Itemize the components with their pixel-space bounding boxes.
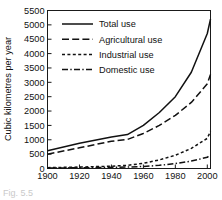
y-tick-label: 5000 xyxy=(24,20,44,30)
y-tick-label: 5500 xyxy=(24,6,44,16)
y-tick-label: 2000 xyxy=(24,106,44,116)
x-tick-label: 1960 xyxy=(133,171,153,181)
legend-item-industrial-use: Industrial use xyxy=(62,50,154,60)
y-tick-label: 500 xyxy=(29,149,44,159)
x-axis-tick-labels: 190019201940196019802000 xyxy=(37,171,217,181)
x-tick-label: 2000 xyxy=(197,171,217,181)
y-tick-label: 2500 xyxy=(24,92,44,102)
y-axis-title: Cubic kilometres per year xyxy=(3,37,13,141)
series-line-domestic-use xyxy=(48,155,211,168)
series-line-agricultural-use xyxy=(48,75,211,155)
line-chart: 0500100015002000250030003500400045005000… xyxy=(0,0,222,200)
legend-label-agricultural-use: Agricultural use xyxy=(99,35,162,45)
chart-legend: Total useAgricultural useIndustrial useD… xyxy=(62,19,162,75)
y-axis-tick-labels: 0500100015002000250030003500400045005000… xyxy=(24,6,44,174)
legend-item-total-use: Total use xyxy=(62,19,136,29)
y-tick-label: 4500 xyxy=(24,34,44,44)
legend-item-domestic-use: Domestic use xyxy=(62,65,155,75)
y-axis-tick-marks xyxy=(48,11,52,169)
y-tick-label: 1500 xyxy=(24,121,44,131)
figure-caption: Fig. 5.5 xyxy=(3,188,33,198)
x-tick-label: 1980 xyxy=(165,171,185,181)
legend-label-domestic-use: Domestic use xyxy=(99,65,155,75)
figure-container: 0500100015002000250030003500400045005000… xyxy=(0,0,222,200)
y-tick-label: 1000 xyxy=(24,135,44,145)
legend-label-industrial-use: Industrial use xyxy=(99,50,154,60)
legend-item-agricultural-use: Agricultural use xyxy=(62,35,162,45)
y-tick-label: 3500 xyxy=(24,63,44,73)
y-tick-label: 4000 xyxy=(24,49,44,59)
y-tick-label: 3000 xyxy=(24,78,44,88)
legend-label-total-use: Total use xyxy=(99,19,136,29)
x-tick-label: 1920 xyxy=(69,171,89,181)
x-tick-label: 1940 xyxy=(101,171,121,181)
x-tick-label: 1900 xyxy=(37,171,57,181)
